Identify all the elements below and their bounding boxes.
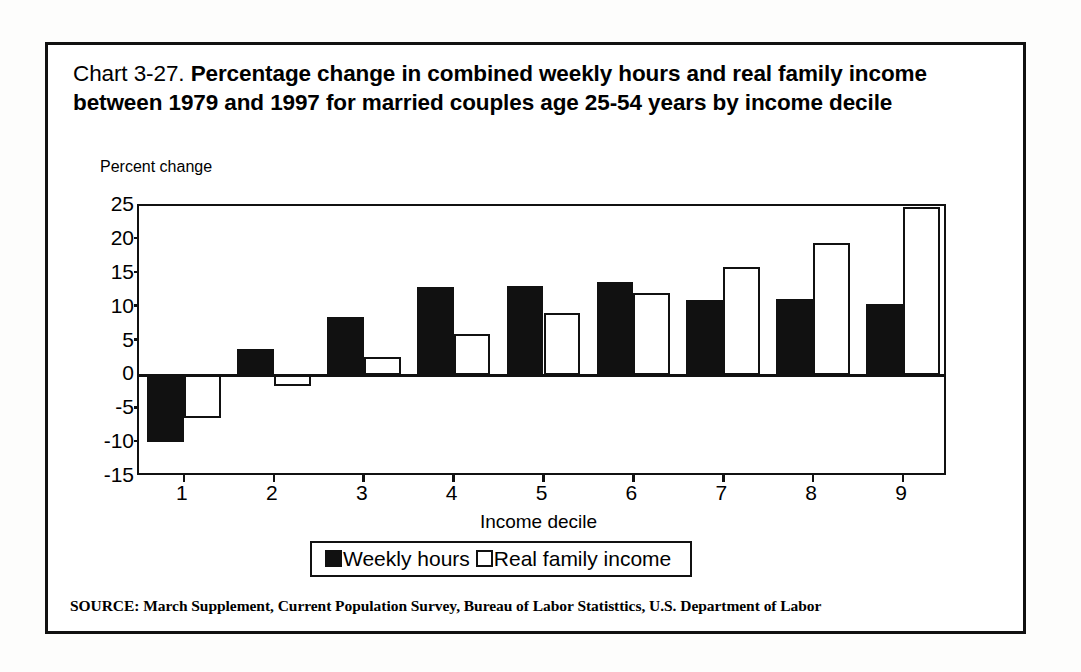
bar-weekly-hours-decile-2 [237,349,274,375]
bar-real-family-income-decile-4 [454,334,491,375]
legend-label: Real family income [494,547,671,571]
chart-title-text: Percentage change in combined weekly hou… [73,61,927,115]
bar-real-family-income-decile-1 [184,375,221,418]
bar-real-family-income-decile-6 [633,293,670,376]
legend-swatch-icon [476,550,493,567]
y-tick-label: -10 [104,429,134,453]
bar-weekly-hours-decile-5 [507,286,544,375]
y-tick-label: 25 [111,192,134,216]
x-tick-label: 2 [266,481,278,505]
x-tick-label: 9 [895,481,907,505]
y-tick-label: 15 [111,260,134,284]
legend-label: Weekly hours [343,547,470,571]
x-tick-label: 4 [446,481,458,505]
bar-real-family-income-decile-8 [813,243,850,375]
legend-entry-weekly-hours[interactable]: Weekly hours [325,547,476,571]
bar-weekly-hours-decile-7 [686,300,723,375]
x-axis-title: Income decile [48,511,1029,533]
y-tick-label: 10 [111,294,134,318]
bar-real-family-income-decile-7 [723,267,760,375]
x-tick-label: 7 [715,481,727,505]
bar-real-family-income-decile-3 [364,357,401,375]
y-tick-label: 20 [111,226,134,250]
x-tick-label: 6 [626,481,638,505]
y-axis-tick-labels: 2520151050-5-10-15 [82,204,134,475]
x-tick-label: 3 [356,481,368,505]
y-tick-label: -5 [115,395,134,419]
chart-legend: Weekly hoursReal family income [310,541,692,577]
bar-weekly-hours-decile-4 [417,287,454,376]
bar-real-family-income-decile-2 [274,375,311,385]
page-background: Chart 3-27. Percentage change in combine… [0,0,1081,672]
bar-weekly-hours-decile-3 [327,317,364,375]
x-axis-tick-labels: 123456789 [137,481,946,511]
chart-number: Chart 3-27. [73,61,184,86]
source-note: SOURCE: March Supplement, Current Popula… [70,597,1010,615]
x-tick-label: 1 [176,481,188,505]
x-tick-label: 5 [536,481,548,505]
bar-weekly-hours-decile-8 [776,299,813,376]
chart-title: Chart 3-27. Percentage change in combine… [73,59,993,117]
bar-real-family-income-decile-9 [903,207,940,375]
x-tick-label: 8 [805,481,817,505]
bars-layer [139,206,944,473]
legend-entry-real-family-income[interactable]: Real family income [476,547,677,571]
zero-baseline [139,374,944,377]
y-tick-label: 5 [122,328,134,352]
y-axis-title: Percent change [100,158,212,176]
bar-weekly-hours-decile-1 [147,375,184,441]
y-tick-label: -15 [104,463,134,487]
figure-container: Chart 3-27. Percentage change in combine… [45,42,1026,634]
y-tick-label: 0 [122,361,134,385]
bar-weekly-hours-decile-6 [597,282,634,375]
plot-area [137,204,946,475]
legend-swatch-icon [325,550,342,567]
bar-weekly-hours-decile-9 [866,304,903,376]
bar-real-family-income-decile-5 [544,313,581,375]
